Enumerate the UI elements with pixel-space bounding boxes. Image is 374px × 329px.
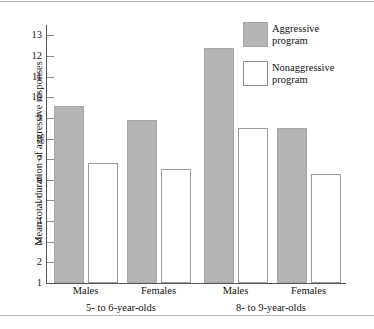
legend-item-nonaggressive[interactable]: Nonaggressive program — [243, 61, 371, 86]
outlined-white-swatch-icon — [243, 61, 268, 86]
legend-item-aggressive[interactable]: Aggressive program — [243, 22, 371, 47]
y-tick-label: 10 — [16, 92, 42, 102]
y-tick-label: 4 — [16, 216, 42, 226]
bar-aggressive-3 — [277, 128, 307, 283]
bar-aggressive-2 — [204, 48, 234, 283]
bar-chart-figure: Mean total duration of aggressive respon… — [0, 0, 374, 329]
legend-label-aggressive: Aggressive program — [272, 22, 319, 46]
chart-legend: Aggressive program Nonaggressive program — [243, 22, 371, 100]
bar-nonaggressive-3 — [311, 174, 341, 283]
y-tick-label: 11 — [16, 72, 42, 82]
y-tick-label: 13 — [16, 30, 42, 40]
legend-label-nonaggressive-line2: program — [272, 74, 334, 86]
legend-label-aggressive-line2: program — [272, 35, 319, 47]
bar-nonaggressive-1 — [161, 169, 191, 283]
bar-aggressive-1 — [127, 120, 157, 283]
x-group-label: 8- to 9-year-olds — [201, 302, 341, 313]
x-axis-labels: MalesFemalesMalesFemales5- to 6-year-old… — [46, 285, 346, 325]
x-tick-label: Males — [46, 285, 126, 296]
y-tick-label: 9 — [16, 113, 42, 123]
bar-nonaggressive-2 — [238, 128, 268, 283]
y-tick-label: 5 — [16, 195, 42, 205]
legend-label-nonaggressive: Nonaggressive program — [272, 61, 334, 85]
x-tick-label: Females — [269, 285, 349, 296]
x-axis-line — [46, 283, 346, 284]
y-tick-label: 3 — [16, 237, 42, 247]
bar-nonaggressive-0 — [88, 163, 118, 283]
y-tick-label: 1 — [16, 278, 42, 288]
legend-label-aggressive-line1: Aggressive — [272, 23, 319, 34]
bar-aggressive-0 — [54, 106, 84, 284]
y-axis-tick-labels: 12345678910111213 — [14, 0, 42, 329]
legend-label-nonaggressive-line1: Nonaggressive — [272, 62, 334, 73]
y-tick-label: 12 — [16, 51, 42, 61]
x-group-label: 5- to 6-year-olds — [51, 302, 191, 313]
x-tick-label: Females — [119, 285, 199, 296]
y-tick-label: 6 — [16, 175, 42, 185]
y-tick-label: 7 — [16, 154, 42, 164]
y-tick-label: 2 — [16, 257, 42, 267]
figure-top-rule — [0, 1, 374, 2]
x-tick-label: Males — [196, 285, 276, 296]
y-tick-label: 8 — [16, 134, 42, 144]
filled-gray-swatch-icon — [243, 22, 268, 47]
